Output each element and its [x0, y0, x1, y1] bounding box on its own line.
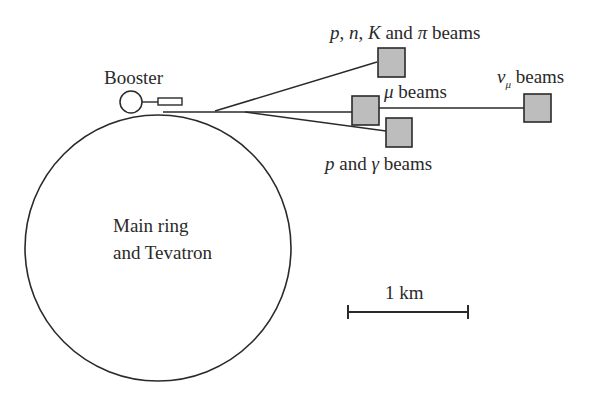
- and-text: and: [385, 22, 412, 43]
- beams-text: beams: [398, 81, 447, 102]
- target-pgamma: [386, 118, 412, 147]
- mu-beams-label: μ beams: [384, 82, 447, 101]
- target-mu: [352, 96, 379, 125]
- pgamma-beams-label: p and γ beams: [325, 154, 432, 173]
- linac: [158, 98, 182, 105]
- nu-beams-label: νμ beams: [497, 67, 564, 90]
- main-ring-label: Main ring and Tevatron: [113, 216, 212, 262]
- gamma-symbol: γ: [371, 153, 379, 174]
- target-nu: [524, 94, 551, 122]
- and-text: and: [339, 153, 366, 174]
- pnk-beams-label: p, n, K and π beams: [330, 23, 480, 42]
- k-symbol: K: [368, 22, 381, 43]
- n-symbol: n: [349, 22, 359, 43]
- beams-text: beams: [516, 66, 565, 87]
- target-pnk: [378, 48, 405, 77]
- beams-text: beams: [432, 22, 481, 43]
- main-ring-label-line1: Main ring: [113, 216, 212, 235]
- nu-subscript: μ: [505, 78, 511, 90]
- scale-label: 1 km: [385, 283, 424, 302]
- p-symbol: p: [325, 153, 335, 174]
- beams-text: beams: [384, 153, 433, 174]
- mu-symbol: μ: [384, 81, 394, 102]
- p-symbol: p: [330, 22, 340, 43]
- main-ring-label-line2: and Tevatron: [113, 243, 212, 262]
- booster-label: Booster: [104, 68, 163, 87]
- accelerator-diagram: [0, 0, 596, 407]
- pi-symbol: π: [418, 22, 428, 43]
- booster-ring: [120, 91, 142, 113]
